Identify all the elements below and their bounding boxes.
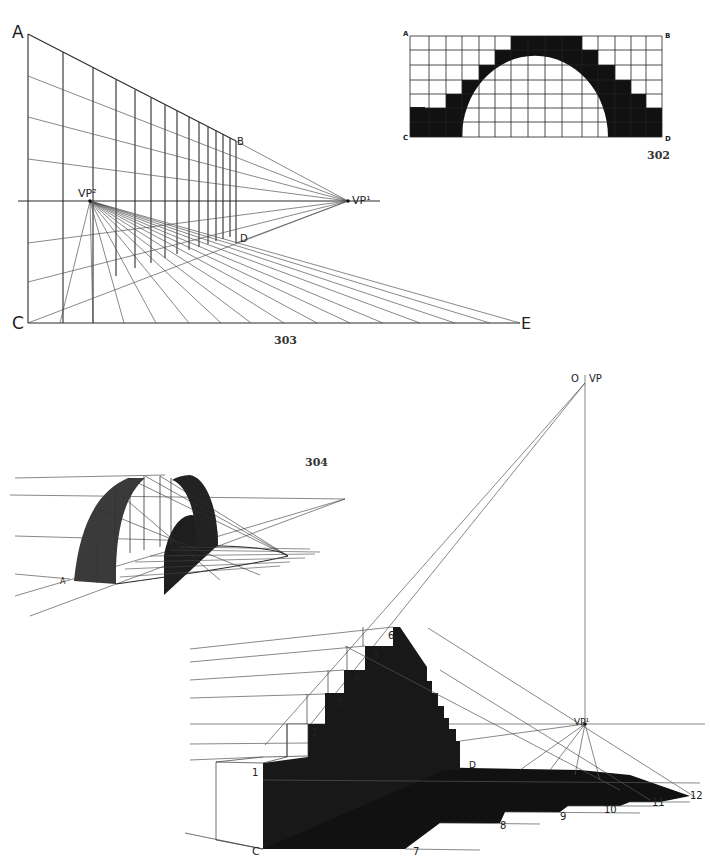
svg-text:6: 6 bbox=[388, 630, 394, 641]
label-vp2: VP² bbox=[78, 187, 97, 200]
svg-text:4: 4 bbox=[354, 672, 360, 683]
svg-text:8: 8 bbox=[500, 820, 506, 831]
label-a: A bbox=[403, 30, 409, 38]
lines-to-vp1 bbox=[28, 76, 348, 323]
label-e: E bbox=[521, 314, 531, 333]
label-d: D bbox=[665, 135, 671, 143]
diagram-canvas: A B C D E VP² VP¹ 303 bbox=[0, 0, 710, 863]
figure-304: A B 304 bbox=[10, 456, 345, 616]
figure-302: A B C D 302 bbox=[403, 30, 671, 162]
label-vp1: VP¹ bbox=[574, 717, 590, 727]
label-vp1: VP¹ bbox=[352, 194, 371, 207]
label-b: B bbox=[193, 535, 198, 543]
svg-text:10: 10 bbox=[604, 804, 617, 815]
label-o: O bbox=[571, 373, 579, 384]
label-c: C bbox=[252, 845, 260, 858]
label-vp: VP bbox=[589, 373, 602, 384]
caption-303: 303 bbox=[274, 334, 297, 347]
lines-from-vp2 bbox=[60, 201, 520, 323]
svg-text:12: 12 bbox=[690, 790, 703, 801]
svg-text:9: 9 bbox=[560, 811, 566, 822]
svg-text:1: 1 bbox=[252, 767, 258, 778]
figure-305: O VP VP¹ C D 1 2 3 4 5 6 7 8 9 10 11 12 bbox=[185, 373, 705, 858]
svg-text:11: 11 bbox=[652, 797, 665, 808]
label-a: A bbox=[60, 577, 66, 586]
svg-text:3: 3 bbox=[336, 697, 342, 708]
caption-302: 302 bbox=[647, 149, 670, 162]
label-d: D bbox=[469, 760, 476, 770]
label-d: D bbox=[240, 233, 248, 244]
svg-text:2: 2 bbox=[311, 727, 317, 738]
svg-text:7: 7 bbox=[413, 846, 419, 857]
label-b: B bbox=[237, 136, 244, 147]
label-a: A bbox=[12, 22, 24, 42]
svg-text:5: 5 bbox=[373, 650, 379, 661]
figure-303: A B C D E VP² VP¹ 303 bbox=[12, 22, 531, 347]
label-c: C bbox=[403, 134, 408, 142]
label-b: B bbox=[665, 32, 670, 40]
caption-304: 304 bbox=[305, 456, 328, 469]
label-c: C bbox=[12, 313, 24, 333]
